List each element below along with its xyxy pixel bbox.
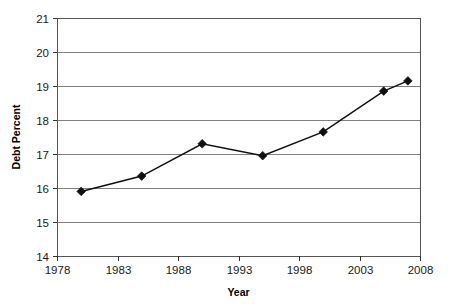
- y-axis-title: Debt Percent: [10, 104, 22, 169]
- x-tick-label-1978: 1978: [45, 264, 71, 276]
- y-tick-label-20: 20: [36, 47, 49, 59]
- chart-canvas: 1415161718192021197819831988199319982003…: [0, 0, 450, 306]
- y-tick-label-14: 14: [36, 251, 49, 263]
- x-axis: 1978198319881993199820032008: [45, 256, 434, 276]
- x-tick-label-1983: 1983: [106, 264, 132, 276]
- x-tick-label-1988: 1988: [166, 264, 192, 276]
- y-tick-label-16: 16: [36, 183, 49, 195]
- y-tick-label-19: 19: [36, 81, 49, 93]
- y-tick-label-17: 17: [36, 149, 49, 161]
- y-tick-label-15: 15: [36, 217, 49, 229]
- x-tick-label-1998: 1998: [287, 264, 313, 276]
- x-tick-label-1993: 1993: [227, 264, 253, 276]
- y-tick-label-21: 21: [36, 13, 49, 25]
- x-axis-title: Year: [227, 286, 249, 298]
- y-tick-label-18: 18: [36, 115, 49, 127]
- debt-percent-line-chart: 1415161718192021197819831988199319982003…: [0, 0, 450, 306]
- plot-background: [57, 18, 420, 256]
- x-tick-label-2008: 2008: [408, 264, 434, 276]
- x-tick-label-2003: 2003: [348, 264, 374, 276]
- y-axis: 1415161718192021: [36, 13, 57, 263]
